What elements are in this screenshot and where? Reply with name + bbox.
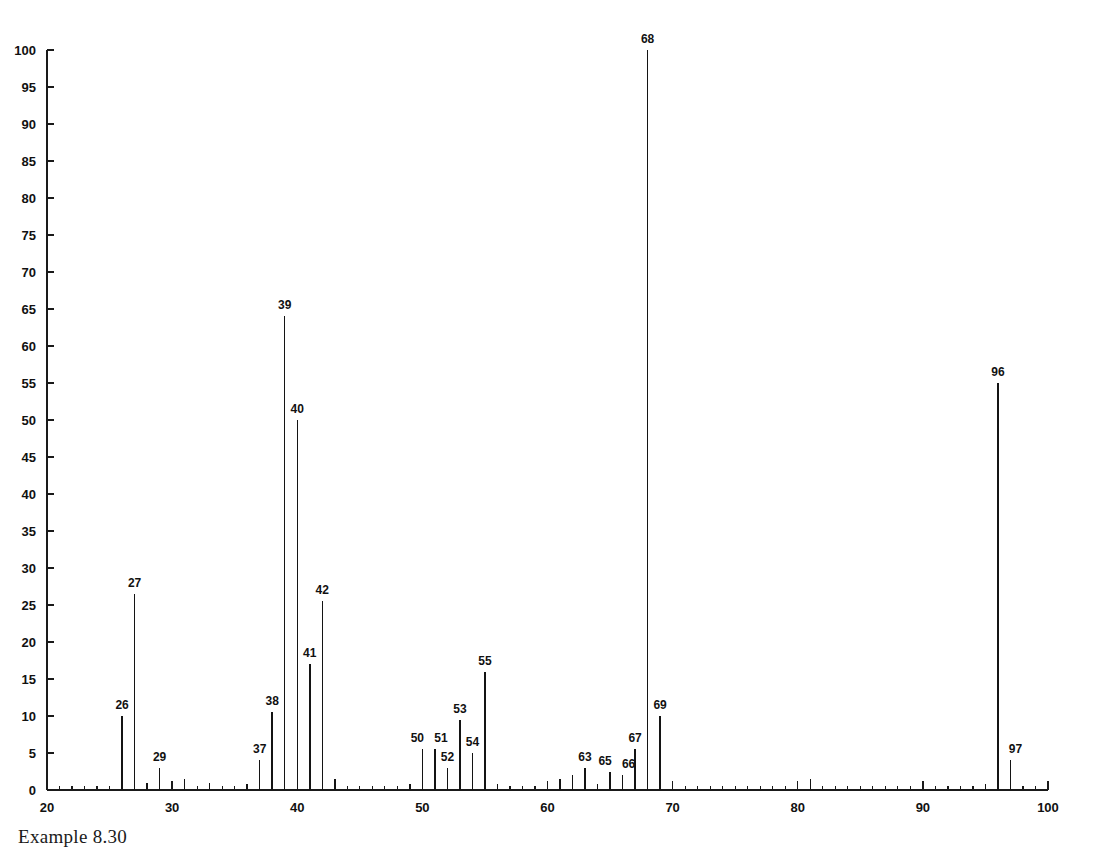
y-axis-tick-label: 65 bbox=[22, 302, 36, 317]
y-axis-tick-label: 0 bbox=[29, 783, 36, 798]
figure-caption: Example 8.30 bbox=[18, 826, 127, 848]
peak-label-68: 68 bbox=[641, 32, 655, 46]
x-axis-tick-label: 90 bbox=[916, 800, 930, 815]
peak-label-66: 66 bbox=[622, 757, 636, 771]
y-axis-tick-label: 20 bbox=[22, 635, 36, 650]
y-axis-tick-label: 30 bbox=[22, 561, 36, 576]
x-axis-tick-label: 20 bbox=[40, 800, 54, 815]
y-axis-tick-label: 45 bbox=[22, 450, 36, 465]
peak-label-67: 67 bbox=[628, 731, 642, 745]
peak-label-27: 27 bbox=[128, 576, 142, 590]
peak-label-37: 37 bbox=[253, 742, 267, 756]
peak-label-41: 41 bbox=[303, 646, 317, 660]
y-axis-tick-label: 60 bbox=[22, 339, 36, 354]
peak-label-63: 63 bbox=[578, 750, 592, 764]
peak-label-55: 55 bbox=[478, 654, 492, 668]
mass-spectrum-figure: 0510152025303540455055606570758085909510… bbox=[0, 0, 1098, 848]
peak-label-26: 26 bbox=[115, 698, 129, 712]
y-axis-tick-label: 40 bbox=[22, 487, 36, 502]
x-axis-tick-label: 80 bbox=[791, 800, 805, 815]
y-axis-tick-label: 75 bbox=[22, 228, 36, 243]
y-axis-tick-label: 25 bbox=[22, 598, 36, 613]
peak-label-65: 65 bbox=[598, 754, 612, 768]
peak-label-96: 96 bbox=[991, 365, 1005, 379]
mass-spectrum-plot: 0510152025303540455055606570758085909510… bbox=[0, 0, 1098, 848]
x-axis-tick-label: 30 bbox=[165, 800, 179, 815]
y-axis-tick-label: 15 bbox=[22, 672, 36, 687]
y-axis-tick-label: 95 bbox=[22, 80, 36, 95]
y-axis-tick-label: 80 bbox=[22, 191, 36, 206]
peak-label-29: 29 bbox=[153, 750, 167, 764]
peak-label-38: 38 bbox=[266, 694, 280, 708]
y-axis-tick-label: 50 bbox=[22, 413, 36, 428]
peak-label-50: 50 bbox=[411, 731, 425, 745]
peak-label-54: 54 bbox=[466, 735, 480, 749]
x-axis-tick-label: 40 bbox=[290, 800, 304, 815]
peak-label-39: 39 bbox=[278, 298, 292, 312]
x-axis-tick-label: 50 bbox=[415, 800, 429, 815]
peak-label-40: 40 bbox=[291, 402, 305, 416]
y-axis-tick-label: 100 bbox=[14, 43, 36, 58]
x-axis-tick-label: 100 bbox=[1037, 800, 1059, 815]
peak-label-52: 52 bbox=[441, 750, 455, 764]
y-axis-tick-label: 35 bbox=[22, 524, 36, 539]
y-axis-tick-label: 5 bbox=[29, 746, 36, 761]
y-axis-tick-label: 85 bbox=[22, 154, 36, 169]
peak-label-97: 97 bbox=[1009, 742, 1023, 756]
y-axis-tick-label: 10 bbox=[22, 709, 36, 724]
y-axis-tick-label: 90 bbox=[22, 117, 36, 132]
y-axis-tick-label: 70 bbox=[22, 265, 36, 280]
peak-label-69: 69 bbox=[653, 698, 667, 712]
x-axis-tick-label: 60 bbox=[540, 800, 554, 815]
peak-label-53: 53 bbox=[453, 702, 467, 716]
y-axis-tick-label: 55 bbox=[22, 376, 36, 391]
peak-label-51: 51 bbox=[434, 731, 448, 745]
peak-label-42: 42 bbox=[316, 583, 330, 597]
x-axis-tick-label: 70 bbox=[665, 800, 679, 815]
